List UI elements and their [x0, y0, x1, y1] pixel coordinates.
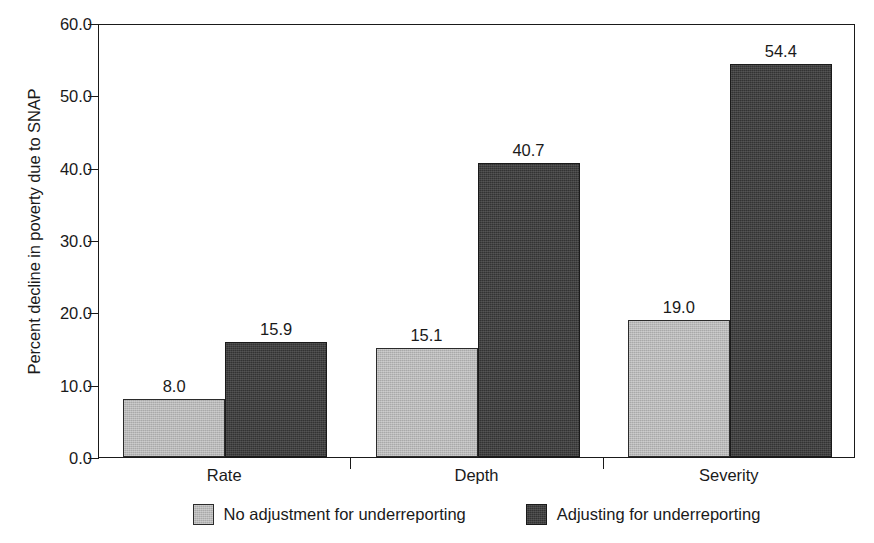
bar-severity-series2[interactable]: [730, 64, 832, 457]
bar-value-label: 19.0: [663, 298, 695, 317]
y-axis-tick-label: 40.0: [0, 159, 92, 178]
bar-rate-series1[interactable]: [123, 399, 225, 457]
plot-area: 8.015.915.140.719.054.4: [98, 24, 855, 458]
bar-value-label: 15.1: [410, 326, 442, 345]
y-axis-tick-label: 10.0: [0, 376, 92, 395]
y-axis-tick-label: 60.0: [0, 15, 92, 34]
y-axis-tick-label: 0.0: [0, 449, 92, 468]
x-axis-tick-mark: [350, 458, 351, 469]
y-axis-tick-mark: [88, 458, 99, 459]
legend-item-adjusting[interactable]: Adjusting for underreporting: [526, 504, 761, 525]
bar-value-label: 15.9: [260, 320, 292, 339]
y-axis-tick-label: 50.0: [0, 87, 92, 106]
plot-inner: 8.015.915.140.719.054.4: [99, 25, 854, 457]
chart-legend: No adjustment for underreporting Adjusti…: [98, 497, 855, 531]
bar-rate-series2[interactable]: [225, 342, 327, 457]
x-axis-label-severity: Severity: [649, 466, 809, 485]
legend-label-adjusting: Adjusting for underreporting: [557, 505, 761, 524]
bar-value-label: 8.0: [163, 377, 186, 396]
x-axis-label-depth: Depth: [397, 466, 557, 485]
bar-depth-series1[interactable]: [376, 348, 478, 457]
bar-severity-series1[interactable]: [628, 320, 730, 457]
y-axis-tick-label: 30.0: [0, 232, 92, 251]
x-axis-label-rate: Rate: [144, 466, 304, 485]
bar-chart-figure: Percent decline in poverty due to SNAP 6…: [0, 0, 874, 543]
y-axis-tick-label: 20.0: [0, 304, 92, 323]
bar-value-label: 54.4: [765, 42, 797, 61]
legend-swatch-icon-dark: [526, 504, 547, 525]
legend-item-no-adjustment[interactable]: No adjustment for underreporting: [193, 504, 466, 525]
x-axis-tick-mark: [603, 458, 604, 469]
legend-swatch-icon-light: [193, 504, 214, 525]
bar-value-label: 40.7: [512, 141, 544, 160]
legend-label-no-adjustment: No adjustment for underreporting: [224, 505, 466, 524]
bar-depth-series2[interactable]: [478, 163, 580, 457]
